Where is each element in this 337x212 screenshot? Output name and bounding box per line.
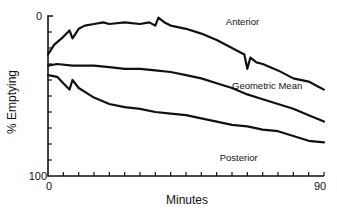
y-axis-label: % Emptying bbox=[5, 57, 19, 147]
series-annotation: Anterior bbox=[226, 16, 259, 27]
series-annotation: Geometric Mean bbox=[232, 80, 302, 91]
x-tick-label-0: 0 bbox=[46, 180, 52, 192]
y-tick-label-100: 100 bbox=[29, 170, 47, 182]
x-axis-label: Minutes bbox=[166, 193, 208, 207]
series-annotation: Posterior bbox=[220, 152, 258, 163]
axis-ticks bbox=[48, 32, 324, 176]
line-chart: 0100090AnteriorGeometric MeanPosterior bbox=[0, 0, 337, 212]
x-tick-label-90: 90 bbox=[314, 180, 326, 192]
series-anterior bbox=[48, 18, 324, 90]
y-tick-label-0: 0 bbox=[36, 10, 42, 22]
